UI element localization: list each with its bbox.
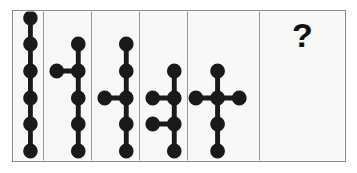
puzzle-cell-2[interactable]: [44, 11, 92, 161]
question-mark-label: ?: [260, 15, 345, 55]
puzzle-cell-6-answer[interactable]: ?: [260, 11, 345, 161]
puzzle-cell-1[interactable]: [13, 11, 44, 161]
puzzle-frame: ?: [12, 10, 346, 162]
figure-cross-four-nodes-two-arms: [188, 11, 259, 161]
figure-five-nodes-one-left-arm: [44, 11, 91, 161]
puzzle-cell-3[interactable]: [92, 11, 140, 161]
figure-four-nodes-two-left-arms: [140, 11, 187, 161]
figure-vertical-six-nodes: [13, 11, 43, 161]
puzzle-cell-5[interactable]: [188, 11, 260, 161]
figure-five-nodes-center-left-arm: [92, 11, 139, 161]
puzzle-cell-4[interactable]: [140, 11, 188, 161]
screenshot-root: ?: [0, 0, 357, 173]
